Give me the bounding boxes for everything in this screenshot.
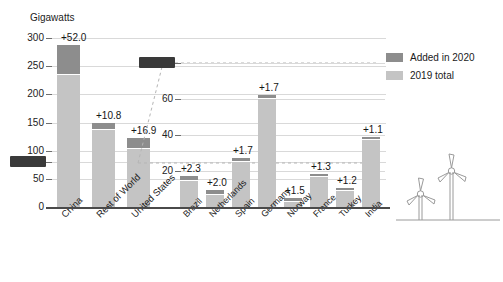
y-tick-mark — [46, 162, 52, 163]
legend-item-added-2020: Added in 2020 — [386, 52, 475, 63]
bar-segment-added-2020 — [362, 137, 380, 140]
y-tick-label: 0 — [10, 201, 44, 212]
bar — [258, 95, 276, 207]
wind-turbine-icon — [396, 148, 500, 230]
legend-label-2019-total: 2019 total — [410, 70, 454, 81]
y-tick-label: 20 — [139, 165, 173, 176]
y-tick-mark — [175, 135, 181, 136]
bar-segment-added-2020 — [206, 190, 224, 195]
bar-segment-2019-total — [362, 139, 380, 207]
gridline — [46, 94, 386, 95]
bar-value-label: +1.3 — [311, 161, 331, 172]
bar-segment-2019-total — [57, 74, 80, 207]
y-tick-mark — [46, 123, 52, 124]
bar-segment-added-2020 — [57, 45, 80, 75]
bar — [57, 45, 80, 207]
legend-swatch-2019-total — [386, 71, 403, 80]
gridline — [175, 171, 385, 172]
chart-canvas: Gigawatts 05080100150200250300 +52.0+10.… — [0, 0, 503, 282]
y-tick-label: 80 — [10, 156, 46, 167]
bar-value-label: +2.0 — [207, 177, 227, 188]
y-tick-label: 40 — [139, 129, 173, 140]
y-tick-label: 250 — [10, 60, 44, 71]
y-axis-title: Gigawatts — [30, 12, 74, 23]
bar-value-label: +52.0 — [61, 32, 86, 43]
bar-segment-added-2020 — [336, 188, 354, 191]
y-tick-label: 200 — [10, 88, 44, 99]
y-tick-label: 300 — [10, 32, 44, 43]
gridline — [175, 135, 385, 136]
bar-segment-added-2020 — [258, 95, 276, 99]
inset-baseline — [175, 207, 390, 209]
bar-segment-added-2020 — [310, 174, 328, 177]
y-tick-label: 150 — [10, 117, 44, 128]
y-tick-mark — [46, 151, 52, 152]
y-tick-mark — [46, 38, 52, 39]
bar-segment-added-2020 — [232, 158, 250, 162]
y-tick-label: 50 — [10, 173, 44, 184]
y-tick-mark — [175, 99, 181, 100]
gridline — [175, 63, 385, 64]
bar-segment-added-2020 — [92, 123, 115, 130]
legend-item-2019-total: 2019 total — [386, 70, 475, 81]
y-tick-mark — [46, 179, 52, 180]
y-tick-label: 100 — [10, 145, 44, 156]
y-tick-mark — [46, 66, 52, 67]
bar-value-label: +1.1 — [363, 124, 383, 135]
bar-value-label: +1.2 — [337, 175, 357, 186]
y-tick-mark — [46, 94, 52, 95]
bar-segment-2019-total — [258, 98, 276, 207]
bar — [362, 137, 380, 207]
gridline — [46, 66, 386, 67]
y-tick-label: 80 — [139, 57, 175, 68]
bar-segment-added-2020 — [180, 176, 198, 181]
legend-label-added-2020: Added in 2020 — [410, 52, 475, 63]
legend: Added in 2020 2019 total — [386, 52, 475, 88]
bar-value-label: +1.7 — [233, 145, 253, 156]
legend-swatch-added-2020 — [386, 53, 403, 62]
y-tick-mark — [175, 63, 181, 64]
bar-value-label: +10.8 — [96, 110, 121, 121]
bar-value-label: +1.7 — [259, 82, 279, 93]
gridline — [46, 38, 386, 39]
gridline — [175, 99, 385, 100]
y-tick-label: 60 — [139, 93, 173, 104]
bar-value-label: +2.3 — [181, 163, 201, 174]
